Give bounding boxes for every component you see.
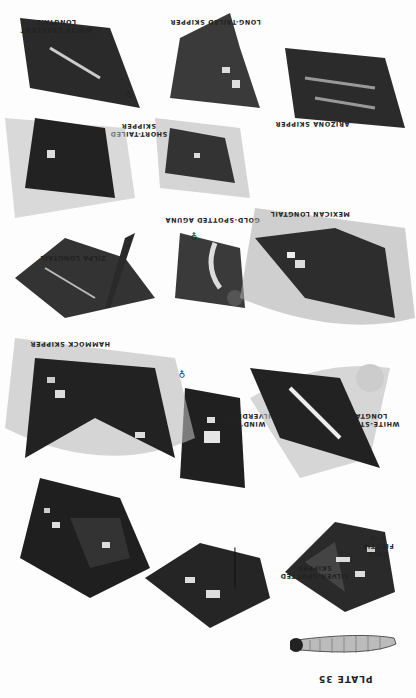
label-mexican-longtail: MEXICAN LONGTAIL bbox=[270, 210, 350, 218]
label-white-striped-longtail: WHITE-STRIPEDLONGTAIL bbox=[335, 412, 400, 428]
label-arizona-skipper: ARIZONA SKIPPER bbox=[275, 120, 349, 128]
field-guide-plate: PLATE 35 SILVER-SPOTTEDSKIPPER DULLFIRET… bbox=[0, 0, 416, 698]
zilpa-longtail-illustration bbox=[10, 228, 165, 338]
label-hammock-skipper: HAMMOCK SKIPPER bbox=[30, 340, 110, 348]
label-long-tailed-skipper: LONG-TAILED SKIPPER bbox=[170, 18, 261, 26]
hammock-skipper-illustration bbox=[5, 338, 195, 478]
label-silver-spotted-skipper: SILVER-SPOTTEDSKIPPER bbox=[280, 564, 349, 580]
mexican-longtail-illustration bbox=[240, 208, 415, 338]
sex-symbol-white-crescent: ♀ bbox=[125, 90, 132, 98]
caterpillar-illustration bbox=[290, 630, 400, 658]
winds-silverdrop-underside-illustration bbox=[140, 538, 280, 638]
sex-symbol-aguna: ♀ bbox=[190, 232, 197, 240]
label-dull-firetip: DULLFIRETIP× ½ bbox=[362, 534, 394, 558]
label-zilpa-longtail: ZILPA LONGTAIL bbox=[40, 254, 106, 262]
label-white-crescent-longtail: WHITE-CRESCENTLONGTAIL bbox=[20, 18, 92, 34]
long-tailed-skipper-illustration bbox=[150, 8, 270, 128]
dull-firetip-illustration bbox=[10, 468, 160, 618]
pointer-line bbox=[234, 547, 235, 587]
plate-number-label: PLATE 35 bbox=[318, 674, 373, 684]
arizona-skipper-illustration bbox=[265, 38, 415, 148]
